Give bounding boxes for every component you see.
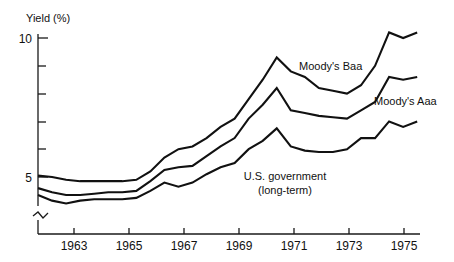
x-tick-label-1975: 1975 bbox=[391, 239, 418, 253]
y-axis-title: Yield (%) bbox=[26, 12, 70, 24]
x-tick-label-1973: 1973 bbox=[336, 239, 363, 253]
chart-canvas: Yield (%) 10 5 1963 1965 1967 1969 1971 … bbox=[0, 0, 454, 262]
series-label-us-government-line1: U.S. government bbox=[244, 170, 327, 182]
axis-break-icon bbox=[33, 212, 48, 218]
series-label-us-government-line2: (long-term) bbox=[258, 184, 312, 196]
series-line-moodys-aaa bbox=[38, 77, 417, 195]
x-tick-label-1965: 1965 bbox=[116, 239, 143, 253]
series-line-us-government bbox=[38, 121, 417, 203]
series-line-moodys-baa bbox=[38, 32, 417, 181]
x-tick-label-1969: 1969 bbox=[226, 239, 253, 253]
y-tick-label-10: 10 bbox=[19, 32, 33, 46]
series-label-moodys-aaa: Moody's Aaa bbox=[374, 95, 438, 107]
x-tick-label-1967: 1967 bbox=[171, 239, 198, 253]
series-label-moodys-baa: Moody's Baa bbox=[299, 60, 363, 72]
yield-chart: Yield (%) 10 5 1963 1965 1967 1969 1971 … bbox=[0, 0, 454, 262]
x-tick-label-1971: 1971 bbox=[281, 239, 308, 253]
y-tick-label-5: 5 bbox=[25, 171, 32, 185]
x-tick-label-1963: 1963 bbox=[61, 239, 88, 253]
